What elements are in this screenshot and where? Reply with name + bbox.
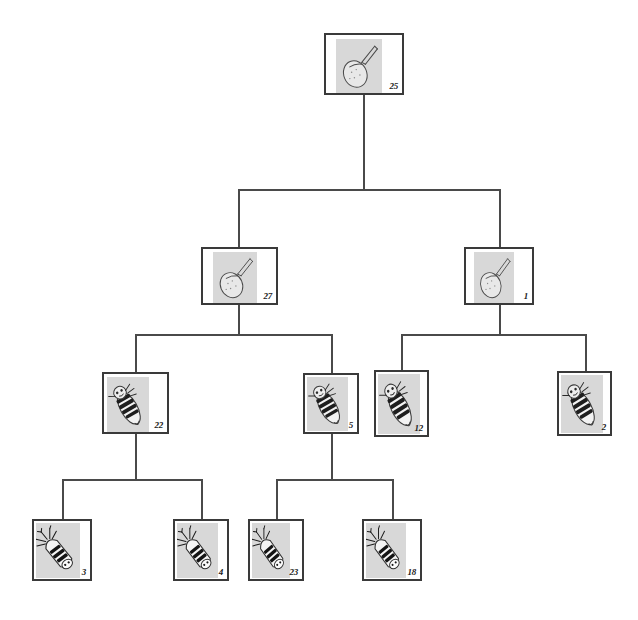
tree-node-5[interactable]: 5: [303, 373, 359, 434]
tree-node-2[interactable]: 2: [557, 371, 612, 436]
specimen-thumbnail-pupa-icon: [474, 252, 514, 303]
connector-to-n3: [62, 479, 64, 519]
specimen-thumbnail-larva-icon: [561, 375, 603, 433]
connector-n1-stem: [499, 305, 501, 335]
connector-n27-stem: [238, 305, 240, 335]
tree-node-22[interactable]: 22: [102, 372, 169, 434]
tree-node-label: 1: [524, 291, 528, 302]
tree-node-label: 12: [414, 423, 423, 434]
connector-to-n4: [201, 479, 203, 519]
specimen-thumbnail-bomb-larva-icon: [177, 523, 218, 578]
connector-to-n5: [331, 334, 333, 373]
specimen-thumbnail-larva-icon: [307, 377, 348, 431]
tree-node-label: 4: [219, 567, 223, 578]
connector-to-n12: [401, 334, 403, 370]
connector-to-n18: [392, 479, 394, 519]
tree-node-label: 3: [82, 567, 86, 578]
tree-node-23[interactable]: 23: [248, 519, 304, 581]
connector-n22-stem: [135, 434, 137, 479]
tree-node-label: 2: [602, 422, 606, 433]
tree-node-12[interactable]: 12: [374, 370, 429, 437]
specimen-thumbnail-pupa-icon: [336, 39, 382, 93]
tree-node-3[interactable]: 3: [32, 519, 92, 581]
connector-to-n23: [276, 479, 278, 519]
tree-node-label: 27: [263, 291, 272, 302]
specimen-thumbnail-pupa-icon: [213, 252, 257, 303]
connector-level3-bar-right: [276, 479, 392, 481]
tree-node-label: 5: [349, 420, 353, 431]
tree-node-4[interactable]: 4: [173, 519, 229, 581]
specimen-thumbnail-larva-icon: [107, 377, 149, 432]
tree-node-1[interactable]: 1: [464, 247, 534, 305]
connector-n5-stem: [331, 434, 333, 479]
tree-node-18[interactable]: 18: [362, 519, 422, 581]
tree-diagram-canvas: 25 27 1: [0, 0, 638, 620]
connector-level2-bar-right: [401, 334, 585, 336]
connector-to-n27: [238, 189, 240, 247]
specimen-thumbnail-bomb-larva-icon: [366, 523, 406, 578]
connector-level2-bar-left: [135, 334, 331, 336]
connector-to-n22: [135, 334, 137, 372]
connector-level3-bar-left: [62, 479, 201, 481]
tree-node-25[interactable]: 25: [324, 33, 404, 95]
specimen-thumbnail-bomb-larva-icon: [36, 523, 80, 578]
tree-node-label: 25: [389, 81, 398, 92]
tree-node-27[interactable]: 27: [201, 247, 278, 305]
tree-node-label: 22: [154, 420, 163, 431]
connector-level1-bar: [238, 189, 500, 191]
connector-root-stem: [363, 95, 365, 190]
tree-node-label: 23: [289, 567, 298, 578]
specimen-thumbnail-bomb-larva-icon: [252, 523, 290, 578]
tree-node-label: 18: [407, 567, 416, 578]
connector-to-n1: [499, 189, 501, 247]
connector-to-n2: [585, 334, 587, 371]
